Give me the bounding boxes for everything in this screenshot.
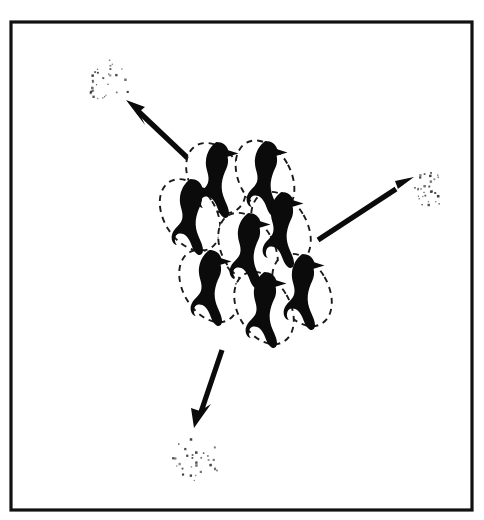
dust-dot (427, 204, 429, 206)
dust-dot (420, 188, 422, 190)
dust-dot (439, 203, 440, 204)
dust-dot (194, 480, 195, 481)
dust-dot (92, 82, 94, 84)
dust-dot (195, 451, 198, 454)
dust-dot (424, 173, 426, 175)
arrow-upper-left (126, 100, 195, 165)
dust-dot (200, 457, 202, 459)
dust-dot (424, 195, 426, 197)
dust-dot (191, 466, 192, 467)
dust-cluster-upper-left (90, 60, 129, 100)
dust-dot (97, 72, 99, 74)
dust-dot (109, 74, 111, 76)
dust-dot (178, 443, 179, 444)
dust-dot (422, 196, 423, 197)
dust-dot (437, 176, 439, 178)
dust-dot (200, 471, 202, 473)
dust-dot (182, 473, 184, 475)
dust-dot (207, 455, 209, 457)
dust-dot (91, 74, 93, 76)
dust-dot (110, 65, 112, 67)
dust-dot (94, 71, 96, 73)
dust-dot (192, 457, 194, 459)
dust-dot (91, 91, 93, 93)
dust-dot (195, 464, 198, 467)
dust-dot (437, 174, 439, 176)
dust-dot (172, 457, 174, 459)
dust-dot (423, 192, 424, 193)
dust-dot (437, 195, 440, 198)
dust-dot (433, 178, 435, 180)
dust-dot (418, 196, 419, 197)
dust-dot (431, 190, 433, 192)
dust-dot (109, 68, 111, 70)
dust-dot (90, 92, 92, 94)
dust-dot (208, 459, 210, 461)
dust-dot (429, 186, 431, 188)
dust-dot (107, 84, 108, 85)
dust-dot (435, 201, 436, 202)
dust-dot (182, 468, 184, 470)
dust-dot (213, 459, 215, 461)
figure-root (0, 0, 484, 520)
dust-dot (102, 97, 103, 98)
flock-dispersal-diagram (0, 0, 484, 520)
dust-dot (91, 87, 94, 90)
dust-dot (105, 95, 106, 96)
dust-dot (186, 455, 188, 457)
arrow-lower-left (191, 350, 222, 428)
dust-dot (430, 180, 432, 182)
dust-dot (102, 77, 104, 79)
dust-dot (419, 198, 420, 199)
dust-dot (216, 470, 218, 472)
dust-dot (124, 79, 126, 81)
dust-dot (417, 188, 419, 190)
dust-dot (195, 475, 197, 477)
dust-dot (421, 204, 422, 205)
dust-dot (419, 174, 421, 176)
dust-dot (174, 457, 176, 459)
dust-dot (192, 454, 194, 456)
dust-dot (96, 84, 97, 85)
dust-dot (97, 98, 98, 99)
dust-dot (176, 465, 177, 466)
dust-cluster-right (414, 172, 440, 206)
dust-dot (203, 452, 204, 453)
arrow-lower-left-shaft (201, 350, 222, 412)
dust-dot (428, 201, 429, 202)
dust-dot (190, 438, 192, 440)
dust-dot (121, 68, 122, 69)
dust-dot (127, 91, 129, 93)
dust-dot (434, 192, 436, 194)
dust-dot (115, 74, 117, 76)
dust-dot (109, 60, 111, 62)
dust-dot (429, 175, 431, 177)
dust-dot (184, 448, 186, 450)
dust-dot (178, 463, 180, 465)
dust-cluster-lower (172, 438, 218, 481)
dust-dot (190, 474, 192, 476)
arrow-upper-left-shaft (138, 111, 195, 165)
arrow-right (318, 177, 414, 240)
dust-dot (430, 172, 432, 174)
dust-dot (112, 64, 113, 65)
dust-dot (97, 69, 98, 70)
dust-dot (414, 187, 416, 189)
dust-dot (92, 96, 94, 98)
dust-dot (419, 176, 421, 178)
dust-dot (195, 461, 197, 463)
dust-dot (108, 74, 109, 75)
dust-dot (214, 468, 216, 470)
dust-dot (116, 92, 118, 94)
dust-dot (104, 96, 105, 97)
dust-dot (423, 185, 425, 187)
dust-dot (214, 446, 216, 448)
arrow-right-shaft (318, 189, 396, 240)
dust-dot (209, 464, 212, 467)
